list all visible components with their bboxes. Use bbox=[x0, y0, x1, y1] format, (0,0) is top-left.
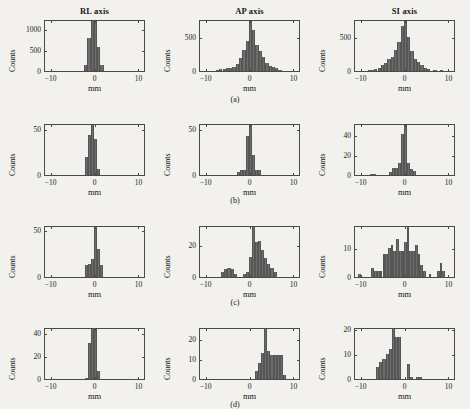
y-axis-title: Counts bbox=[8, 49, 17, 72]
y-axis-title: Counts bbox=[163, 153, 172, 176]
x-tick-label: 0 bbox=[236, 382, 264, 391]
x-tick-top bbox=[51, 20, 52, 23]
bar-series bbox=[200, 21, 299, 71]
histogram-bar bbox=[410, 377, 413, 379]
histogram-bar bbox=[419, 377, 422, 379]
x-tick-label: 0 bbox=[81, 74, 109, 83]
plot-panel-c-rl bbox=[44, 226, 145, 278]
row-label-b: (b) bbox=[0, 196, 470, 205]
x-tick-top bbox=[51, 328, 52, 331]
histogram-bar bbox=[398, 337, 401, 379]
x-tick-top bbox=[361, 226, 362, 229]
x-tick bbox=[95, 377, 96, 380]
x-tick bbox=[361, 377, 362, 380]
histogram-bar bbox=[97, 169, 100, 175]
y-tick-right bbox=[142, 30, 145, 31]
y-tick bbox=[44, 51, 47, 52]
x-tick-label: 10 bbox=[124, 382, 152, 391]
bar-series bbox=[45, 21, 144, 71]
x-tick-label: 0 bbox=[236, 74, 264, 83]
x-tick-top bbox=[206, 20, 207, 23]
x-tick bbox=[293, 173, 294, 176]
y-axis-title: Counts bbox=[318, 153, 327, 176]
x-axis-title: mm bbox=[44, 391, 145, 401]
y-tick-right bbox=[142, 130, 145, 131]
y-tick-label: 50 bbox=[10, 226, 41, 235]
y-tick-label: 500 bbox=[165, 33, 196, 42]
x-tick-label: 0 bbox=[391, 178, 419, 187]
x-axis-title: mm bbox=[199, 83, 300, 93]
x-tick bbox=[250, 275, 251, 278]
y-tick bbox=[354, 379, 357, 380]
y-tick-right bbox=[142, 379, 145, 380]
y-tick bbox=[199, 379, 202, 380]
y-tick bbox=[44, 71, 47, 72]
x-tick bbox=[95, 173, 96, 176]
x-axis-title: mm bbox=[44, 83, 145, 93]
column-title-ap: AP axis bbox=[199, 6, 300, 16]
y-tick-right bbox=[142, 175, 145, 176]
x-tick-label: 10 bbox=[434, 74, 462, 83]
histogram-bar bbox=[258, 170, 261, 175]
y-tick bbox=[354, 175, 357, 176]
x-tick-top bbox=[138, 20, 139, 23]
y-tick-label: 20 bbox=[320, 325, 351, 334]
histogram-bar bbox=[427, 69, 430, 71]
x-tick bbox=[405, 275, 406, 278]
y-tick bbox=[44, 357, 47, 358]
x-tick-top bbox=[361, 20, 362, 23]
y-tick-right bbox=[452, 175, 455, 176]
x-tick-top bbox=[293, 20, 294, 23]
y-tick bbox=[44, 379, 47, 380]
x-tick bbox=[138, 275, 139, 278]
x-axis-title: mm bbox=[199, 187, 300, 197]
y-tick-right bbox=[297, 246, 300, 247]
x-axis-title: mm bbox=[44, 289, 145, 299]
x-tick bbox=[361, 173, 362, 176]
x-axis-title: mm bbox=[354, 289, 455, 299]
y-tick-right bbox=[452, 156, 455, 157]
x-tick bbox=[448, 275, 449, 278]
y-tick-label: 40 bbox=[320, 131, 351, 140]
y-tick-label: 40 bbox=[10, 329, 41, 338]
y-tick-right bbox=[142, 357, 145, 358]
y-tick-right bbox=[142, 51, 145, 52]
y-tick-right bbox=[452, 355, 455, 356]
histogram-bar bbox=[433, 70, 436, 71]
histogram-bar bbox=[373, 174, 376, 175]
plot-panel-d-si bbox=[354, 328, 455, 380]
y-tick bbox=[44, 130, 47, 131]
x-axis-title: mm bbox=[44, 187, 145, 197]
plot-panel-a-si bbox=[354, 20, 455, 72]
y-tick bbox=[354, 277, 357, 278]
x-axis-title: mm bbox=[354, 187, 455, 197]
x-tick-top bbox=[250, 226, 251, 229]
plot-panel-a-ap bbox=[199, 20, 300, 72]
column-title-si: SI axis bbox=[354, 6, 455, 16]
histogram-bar bbox=[440, 70, 443, 71]
x-tick-label: 10 bbox=[279, 382, 307, 391]
x-tick-top bbox=[95, 226, 96, 229]
x-tick bbox=[448, 173, 449, 176]
y-tick-right bbox=[452, 330, 455, 331]
x-tick-label: 10 bbox=[434, 382, 462, 391]
histogram-bar bbox=[429, 274, 432, 277]
x-tick-top bbox=[138, 226, 139, 229]
x-tick-label: 10 bbox=[279, 74, 307, 83]
x-tick-top bbox=[293, 226, 294, 229]
y-tick bbox=[354, 38, 357, 39]
y-tick-right bbox=[452, 379, 455, 380]
x-tick bbox=[405, 377, 406, 380]
bar-series bbox=[45, 125, 144, 175]
bar-series bbox=[45, 227, 144, 277]
x-tick bbox=[293, 69, 294, 72]
y-tick-right bbox=[452, 249, 455, 250]
column-title-rl: RL axis bbox=[44, 6, 145, 16]
bar-series bbox=[355, 21, 454, 71]
row-label-d: (d) bbox=[0, 400, 470, 409]
x-tick-top bbox=[361, 124, 362, 127]
x-tick-top bbox=[206, 328, 207, 331]
x-axis-title: mm bbox=[199, 289, 300, 299]
x-tick-top bbox=[138, 124, 139, 127]
x-axis-title: mm bbox=[354, 83, 455, 93]
